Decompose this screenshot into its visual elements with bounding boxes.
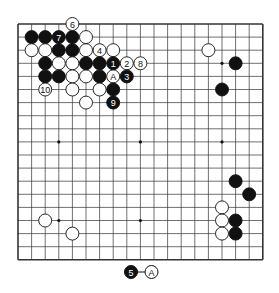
star-point bbox=[220, 140, 223, 143]
black-stone bbox=[39, 70, 52, 83]
stone-label: 7 bbox=[56, 33, 61, 43]
black-stone bbox=[39, 57, 52, 70]
black-stone bbox=[52, 44, 65, 57]
white-stone bbox=[107, 44, 120, 57]
black-stone-disc bbox=[52, 70, 65, 83]
white-stone bbox=[93, 83, 106, 96]
white-stone bbox=[66, 70, 79, 83]
white-stone-disc bbox=[80, 31, 93, 44]
black-stone: 9 bbox=[107, 96, 120, 109]
white-stone bbox=[80, 44, 93, 57]
stone-label: 6 bbox=[70, 20, 75, 30]
go-board-diagram: 764128A3109 5 A bbox=[0, 0, 279, 293]
black-stone-disc bbox=[39, 57, 52, 70]
stone-label: 3 bbox=[124, 72, 129, 82]
black-stone bbox=[25, 31, 38, 44]
stone-label: A bbox=[110, 72, 116, 82]
white-stone bbox=[52, 57, 65, 70]
black-stone bbox=[39, 31, 52, 44]
white-stone bbox=[80, 31, 93, 44]
white-stone-disc bbox=[52, 57, 65, 70]
star-point bbox=[57, 219, 60, 222]
white-stone bbox=[80, 96, 93, 109]
white-stone bbox=[216, 201, 229, 214]
black-stone-disc bbox=[93, 70, 106, 83]
white-stone-disc bbox=[216, 214, 229, 227]
white-stone: 4 bbox=[93, 44, 106, 57]
white-stone: 10 bbox=[39, 83, 52, 96]
white-stone: A bbox=[107, 70, 120, 83]
black-stone bbox=[229, 175, 242, 188]
white-stone-disc bbox=[216, 201, 229, 214]
white-stone-disc bbox=[25, 44, 38, 57]
white-stone: 2 bbox=[120, 57, 133, 70]
black-stone-disc bbox=[229, 214, 242, 227]
star-point bbox=[139, 140, 142, 143]
black-stone-disc bbox=[229, 57, 242, 70]
black-stone bbox=[229, 214, 242, 227]
white-stone-disc bbox=[66, 83, 79, 96]
stone-label: 2 bbox=[124, 59, 129, 69]
black-stone-disc bbox=[93, 57, 106, 70]
black-stone bbox=[229, 57, 242, 70]
black-stone bbox=[216, 83, 229, 96]
black-stone-disc bbox=[107, 83, 120, 96]
black-stone-disc bbox=[80, 57, 93, 70]
white-stone-disc bbox=[80, 44, 93, 57]
black-stone bbox=[66, 44, 79, 57]
move-caption: 5 A bbox=[125, 266, 159, 279]
black-stone-disc bbox=[39, 31, 52, 44]
white-stone bbox=[66, 83, 79, 96]
white-stone bbox=[39, 44, 52, 57]
white-stone bbox=[80, 70, 93, 83]
black-stone-disc bbox=[66, 44, 79, 57]
white-stone-disc bbox=[80, 70, 93, 83]
white-stone: 6 bbox=[66, 18, 79, 31]
black-stone bbox=[80, 57, 93, 70]
star-point bbox=[220, 62, 223, 65]
white-stone-disc bbox=[66, 70, 79, 83]
white-stone bbox=[216, 227, 229, 240]
black-stone-disc bbox=[39, 70, 52, 83]
stone-label: 1 bbox=[111, 59, 116, 69]
stone-label: 9 bbox=[111, 98, 116, 108]
white-stone bbox=[66, 57, 79, 70]
white-stone bbox=[202, 44, 215, 57]
black-stone-disc bbox=[66, 31, 79, 44]
white-stone: 8 bbox=[134, 57, 147, 70]
white-stone-disc bbox=[93, 83, 106, 96]
stone-label: 8 bbox=[138, 59, 143, 69]
black-stone-disc bbox=[25, 31, 38, 44]
stone-label: 4 bbox=[97, 46, 102, 56]
white-stone-disc bbox=[39, 214, 52, 227]
black-stone-disc bbox=[229, 227, 242, 240]
black-stone bbox=[229, 227, 242, 240]
white-stone-disc bbox=[202, 44, 215, 57]
black-stone: 7 bbox=[52, 31, 65, 44]
white-stone-disc bbox=[216, 227, 229, 240]
caption-black-stone-label: 5 bbox=[128, 268, 133, 278]
black-stone: 1 bbox=[107, 57, 120, 70]
white-stone-disc bbox=[107, 44, 120, 57]
black-stone bbox=[243, 188, 256, 201]
caption-white-stone-label: A bbox=[148, 268, 154, 278]
white-stone bbox=[216, 214, 229, 227]
white-stone bbox=[25, 44, 38, 57]
black-stone: 3 bbox=[120, 70, 133, 83]
black-stone-disc bbox=[216, 83, 229, 96]
black-stone bbox=[52, 70, 65, 83]
black-stone bbox=[93, 70, 106, 83]
black-stone-disc bbox=[243, 188, 256, 201]
black-stone-disc bbox=[52, 44, 65, 57]
white-stone-disc bbox=[66, 57, 79, 70]
black-stone-disc bbox=[229, 175, 242, 188]
white-stone-disc bbox=[80, 96, 93, 109]
star-point bbox=[139, 219, 142, 222]
black-stone bbox=[107, 83, 120, 96]
black-stone bbox=[93, 57, 106, 70]
white-stone-disc bbox=[66, 227, 79, 240]
black-stone bbox=[66, 31, 79, 44]
white-stone bbox=[66, 227, 79, 240]
star-point bbox=[57, 140, 60, 143]
white-stone-disc bbox=[39, 44, 52, 57]
